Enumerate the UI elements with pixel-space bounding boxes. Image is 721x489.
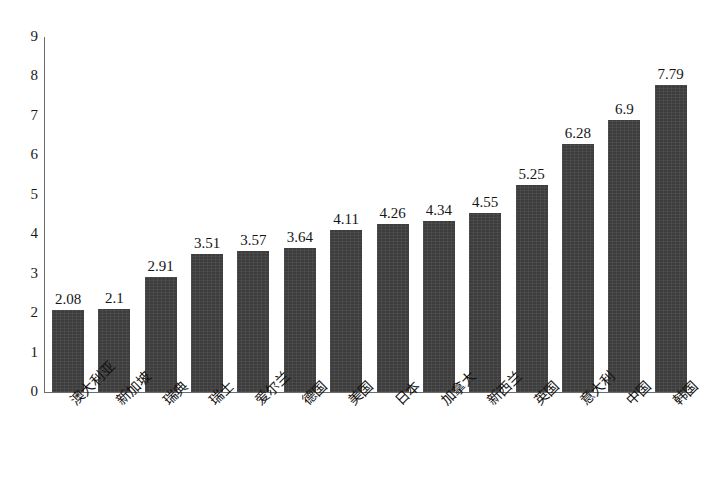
x-label-slot: 德国 [277, 394, 323, 489]
bar[interactable] [284, 248, 316, 392]
bar[interactable] [52, 310, 84, 392]
x-label-slot: 日本 [370, 394, 416, 489]
y-axis-tick-8: 8 [0, 68, 38, 83]
x-label-slot: 加拿大 [416, 394, 462, 489]
y-axis-tick-4: 4 [0, 226, 38, 241]
bar-slot: 6.28 [555, 37, 601, 392]
bar[interactable] [655, 85, 687, 392]
bar-chart: 0123456789 2.082.12.913.513.573.644.114.… [0, 0, 721, 489]
bar-value-label: 2.1 [85, 290, 143, 306]
bar-value-label: 7.79 [642, 66, 700, 82]
bar-value-label: 4.55 [456, 194, 514, 210]
bar-slot: 3.57 [230, 37, 276, 392]
x-label-slot: 美国 [323, 394, 369, 489]
bar-slot: 2.91 [138, 37, 184, 392]
x-label-slot: 爱尔兰 [230, 394, 276, 489]
bar[interactable] [191, 254, 223, 392]
bar-slot: 4.55 [462, 37, 508, 392]
bar[interactable] [562, 144, 594, 392]
x-label-slot: 意大利 [555, 394, 601, 489]
x-label-slot: 瑞士 [184, 394, 230, 489]
x-label-slot: 新加坡 [91, 394, 137, 489]
y-axis-tick-9: 9 [0, 29, 38, 44]
bar[interactable] [423, 221, 455, 392]
bar[interactable] [237, 251, 269, 392]
y-axis-tick-2: 2 [0, 305, 38, 320]
y-axis-tick-6: 6 [0, 147, 38, 162]
x-label-slot: 韩国 [648, 394, 694, 489]
x-label-slot: 澳大利亚 [45, 394, 91, 489]
bar[interactable] [608, 120, 640, 392]
y-axis-tick-labels: 0123456789 [0, 0, 38, 489]
x-label-slot: 中国 [601, 394, 647, 489]
bar-slot: 3.51 [184, 37, 230, 392]
x-axis-tick-labels: 澳大利亚新加坡瑞典瑞士爱尔兰德国美国日本加拿大新西兰英国意大利中国韩国 [45, 394, 694, 489]
bar-value-label: 6.28 [549, 125, 607, 141]
x-label-slot: 新西兰 [462, 394, 508, 489]
bar-slot: 7.79 [648, 37, 694, 392]
bar-value-label: 5.25 [503, 166, 561, 182]
bar[interactable] [469, 213, 501, 392]
bar-slot: 2.1 [91, 37, 137, 392]
x-label-slot: 英国 [509, 394, 555, 489]
bar-slot: 6.9 [601, 37, 647, 392]
y-axis-tick-1: 1 [0, 345, 38, 360]
y-axis-tick-0: 0 [0, 384, 38, 399]
bar-slot: 2.08 [45, 37, 91, 392]
bar-slot: 5.25 [509, 37, 555, 392]
bar-value-label: 3.64 [271, 229, 329, 245]
bar[interactable] [377, 224, 409, 392]
bar[interactable] [330, 230, 362, 392]
bar[interactable] [516, 185, 548, 392]
bar-slot: 4.34 [416, 37, 462, 392]
y-axis-tick-7: 7 [0, 108, 38, 123]
plot-area: 2.082.12.913.513.573.644.114.264.344.555… [45, 37, 694, 392]
y-axis-tick-5: 5 [0, 187, 38, 202]
bar-value-label: 2.91 [132, 258, 190, 274]
y-axis-tick-3: 3 [0, 266, 38, 281]
x-label-slot: 瑞典 [138, 394, 184, 489]
bar-value-label: 6.9 [595, 101, 653, 117]
